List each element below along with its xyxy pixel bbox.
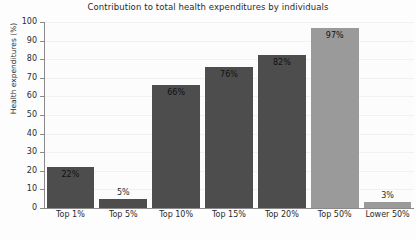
y-axis-tick <box>40 208 44 209</box>
y-axis-tick-label: 90 <box>0 37 37 45</box>
y-axis-tick-label: 60 <box>0 92 37 100</box>
y-axis-tick <box>40 41 44 42</box>
bar-value-label: 97% <box>311 32 359 40</box>
y-axis-tick <box>40 115 44 116</box>
bar[interactable]: 22% <box>47 167 95 208</box>
bar-value-label: 22% <box>47 171 95 179</box>
y-axis-tick-label: 0 <box>0 204 37 212</box>
x-axis-label: Top 1% <box>44 211 97 220</box>
gridline <box>44 22 414 23</box>
y-axis-tick-label: 20 <box>0 167 37 175</box>
x-axis-label: Lower 50% <box>361 211 414 220</box>
bar[interactable] <box>99 199 147 208</box>
y-axis-tick-label: 10 <box>0 185 37 193</box>
bar-value-label: 66% <box>152 89 200 97</box>
x-axis-label: Top 5% <box>97 211 150 220</box>
x-axis-label: Top 10% <box>150 211 203 220</box>
y-axis-tick <box>40 78 44 79</box>
bar[interactable]: 76% <box>205 67 253 208</box>
y-axis-tick <box>40 134 44 135</box>
x-axis-label: Top 15% <box>203 211 256 220</box>
x-axis-label: Top 50% <box>308 211 361 220</box>
bar-chart: Contribution to total health expenditure… <box>0 0 416 240</box>
bar[interactable]: 82% <box>258 55 306 208</box>
y-axis-tick-label: 50 <box>0 111 37 119</box>
plot-area: 22%5%66%76%82%97%3% <box>44 22 414 208</box>
bar-value-label: 76% <box>205 71 253 79</box>
bar[interactable]: 97% <box>311 28 359 208</box>
y-axis-tick <box>40 59 44 60</box>
y-axis-tick <box>40 96 44 97</box>
bar-value-label: 5% <box>99 189 147 197</box>
bar-value-label: 82% <box>258 59 306 67</box>
x-axis-line <box>44 208 414 209</box>
y-axis-tick <box>40 171 44 172</box>
y-axis-tick-label: 80 <box>0 55 37 63</box>
chart-title: Contribution to total health expenditure… <box>0 2 416 12</box>
y-axis-tick <box>40 152 44 153</box>
y-axis-tick-label: 70 <box>0 74 37 82</box>
bar[interactable]: 66% <box>152 85 200 208</box>
y-axis-tick-label: 40 <box>0 130 37 138</box>
y-axis-tick-label: 30 <box>0 148 37 156</box>
y-axis-tick <box>40 189 44 190</box>
y-axis-line <box>44 22 45 209</box>
x-axis-label: Top 20% <box>255 211 308 220</box>
y-axis-tick <box>40 22 44 23</box>
y-axis-tick-label: 100 <box>0 18 37 26</box>
bar-value-label: 3% <box>364 192 412 200</box>
